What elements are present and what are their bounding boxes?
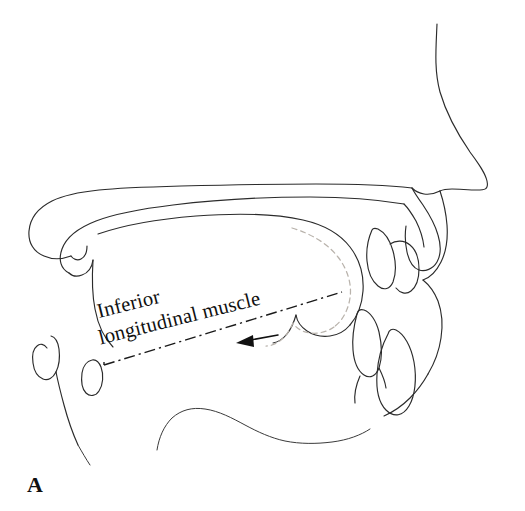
mandible-contour xyxy=(78,445,90,465)
panel-letter: A xyxy=(27,474,43,496)
epiglottis xyxy=(353,310,382,377)
soft-palate xyxy=(404,204,424,247)
tongue-alternate-position xyxy=(266,228,351,346)
lower-incisor xyxy=(82,360,103,396)
muscle-label: Inferior longitudinal muscle xyxy=(90,262,263,350)
lower-lip xyxy=(33,336,78,445)
anatomical-line-drawing: Inferior longitudinal muscle xyxy=(0,0,525,511)
nose-profile xyxy=(436,24,488,191)
floor-of-mouth xyxy=(157,408,370,450)
upper-lip xyxy=(405,188,440,271)
upper-lip-inner xyxy=(69,246,93,276)
uvula xyxy=(367,228,396,288)
hard-palate xyxy=(29,184,412,273)
figure-canvas: Inferior longitudinal muscle A xyxy=(0,0,525,511)
